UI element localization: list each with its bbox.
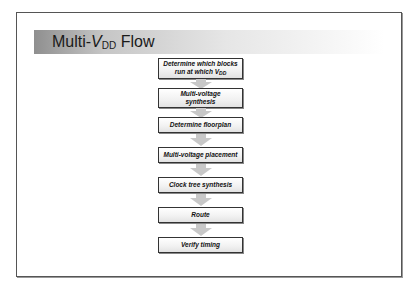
down-arrow-icon [190, 134, 212, 144]
slide-title: Multi-VDD Flow [52, 33, 154, 51]
flow-step-multi-voltage-synthesis: Multi-voltage synthesis [158, 88, 243, 108]
down-arrow-icon [190, 164, 212, 174]
flow-step-determine-blocks: Determine which blocks run at which VDD [158, 58, 243, 79]
flow-step-clock-tree-synthesis: Clock tree synthesis [158, 177, 243, 193]
flow-step-verify-timing: Verify timing [158, 237, 243, 253]
down-arrow-icon [190, 194, 212, 204]
flow-step-floorplan: Determine floorplan [158, 117, 243, 133]
flow-step-placement: Multi-voltage placement [158, 147, 243, 163]
flow-step-route: Route [158, 207, 243, 223]
down-arrow-icon [190, 224, 212, 234]
